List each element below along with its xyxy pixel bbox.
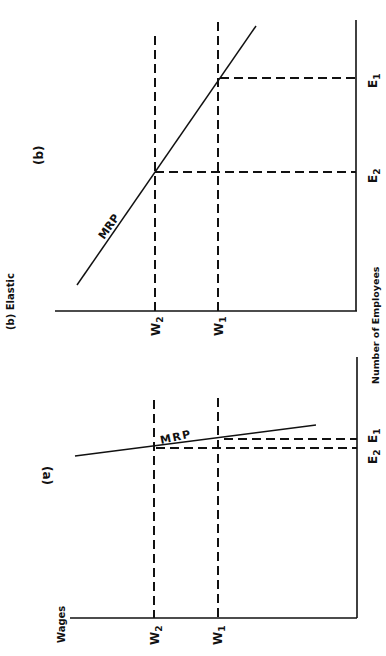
panel-b-mrp-label: MRP	[96, 212, 122, 242]
figure-title: (b) Elastic	[5, 273, 16, 330]
svg-text:E1: E1	[366, 429, 382, 443]
svg-text:W1: W1	[212, 316, 228, 336]
svg-text:E2: E2	[366, 450, 382, 464]
panel-a-w2-label: W2	[148, 625, 164, 645]
panel-b-mrp-curve	[77, 26, 256, 285]
employment-axis-label: Number of Employees	[370, 266, 381, 384]
panel-a-e1-label: E1	[366, 429, 382, 443]
panel-a: (a) MRP Wages W2 W1 E1 E2	[40, 357, 382, 645]
panel-a-w1-label: W1	[211, 625, 227, 645]
svg-text:W1: W1	[211, 625, 227, 645]
panel-a-mrp-label: MRP	[159, 428, 193, 447]
panel-b-w2-label: W2	[149, 316, 165, 336]
panel-b-label: (b)	[32, 145, 46, 165]
panel-b-e1-label: E1	[366, 74, 382, 88]
labor-demand-diagram: (b) Elastic (b) MRP W2 W1 E1 E2 Numb	[0, 0, 386, 656]
panel-b: (b) MRP W2 W1 E1 E2	[32, 20, 382, 336]
svg-text:E1: E1	[366, 74, 382, 88]
panel-a-label: (a)	[40, 466, 54, 485]
panel-a-e2-label: E2	[366, 450, 382, 464]
panel-a-mrp-curve	[75, 425, 316, 456]
svg-text:W2: W2	[148, 625, 164, 645]
svg-text:W2: W2	[149, 316, 165, 336]
svg-text:E2: E2	[366, 169, 382, 183]
panel-b-w1-label: W1	[212, 316, 228, 336]
panel-b-e2-label: E2	[366, 169, 382, 183]
wage-axis-label: Wages	[56, 606, 67, 643]
